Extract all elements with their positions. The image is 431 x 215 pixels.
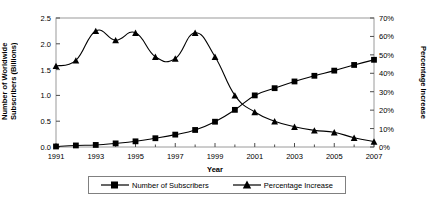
svg-text:2.0: 2.0 <box>41 40 51 49</box>
svg-text:1.5: 1.5 <box>41 66 51 75</box>
svg-text:2005: 2005 <box>326 152 343 161</box>
svg-text:50%: 50% <box>379 51 394 60</box>
svg-text:40%: 40% <box>379 69 394 78</box>
svg-text:30%: 30% <box>379 88 394 97</box>
svg-text:0.5: 0.5 <box>41 117 51 126</box>
data-series-group <box>53 28 378 150</box>
legend-label-subscribers: Number of Subscribers <box>132 181 209 190</box>
svg-text:1995: 1995 <box>127 152 144 161</box>
svg-text:0%: 0% <box>379 143 390 152</box>
svg-text:70%: 70% <box>379 14 394 23</box>
svg-text:1999: 1999 <box>207 152 224 161</box>
axes-group <box>56 18 374 147</box>
svg-text:20%: 20% <box>379 106 394 115</box>
svg-text:2003: 2003 <box>286 152 303 161</box>
svg-text:1.0: 1.0 <box>41 91 51 100</box>
legend-item-percentage: Percentage Increase <box>233 180 333 190</box>
legend-label-percentage: Percentage Increase <box>264 181 333 190</box>
legend-item-subscribers: Number of Subscribers <box>101 180 209 190</box>
svg-text:2.5: 2.5 <box>41 14 51 23</box>
chart-container: Number of Worldwide Subscribers (Billion… <box>0 0 431 215</box>
svg-text:60%: 60% <box>379 32 394 41</box>
y-axis-left-ticks: 0.00.51.01.52.02.5 <box>41 14 60 152</box>
svg-text:0.0: 0.0 <box>41 143 51 152</box>
svg-text:1991: 1991 <box>48 152 65 161</box>
triangle-marker-icon <box>233 180 261 190</box>
svg-text:2007: 2007 <box>366 152 383 161</box>
svg-text:10%: 10% <box>379 125 394 134</box>
svg-text:1993: 1993 <box>87 152 104 161</box>
svg-text:1997: 1997 <box>167 152 184 161</box>
chart-legend: Number of Subscribers Percentage Increas… <box>88 176 346 194</box>
square-marker-icon <box>101 180 129 190</box>
svg-text:2001: 2001 <box>246 152 263 161</box>
